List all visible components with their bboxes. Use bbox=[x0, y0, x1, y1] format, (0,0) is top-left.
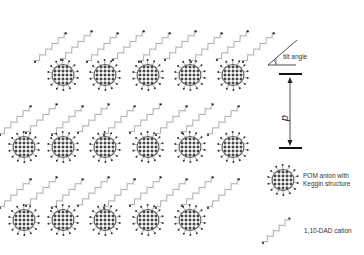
pom-cluster bbox=[132, 204, 163, 236]
pom-layer bbox=[8, 59, 248, 236]
cation-legend-label: 1,10-DAD cation bbox=[304, 227, 352, 235]
spacing-d-label: d bbox=[280, 115, 292, 121]
cation-layer bbox=[0, 30, 275, 209]
pom-cluster bbox=[174, 204, 205, 236]
tilt-angle-label: tilt angle bbox=[283, 53, 307, 61]
pom-cluster bbox=[47, 59, 78, 91]
pom-cluster bbox=[89, 59, 120, 91]
pom-cluster bbox=[89, 204, 120, 236]
pom-cluster bbox=[217, 131, 248, 163]
pom-legend-label: POM anion with Keggin structure bbox=[303, 172, 350, 188]
pom-cluster bbox=[132, 59, 163, 91]
pom-cluster bbox=[132, 131, 163, 163]
pom-cluster bbox=[174, 59, 205, 91]
legend bbox=[262, 40, 302, 244]
pom-cluster bbox=[8, 204, 39, 236]
pom-cluster bbox=[174, 131, 205, 163]
pom-cluster bbox=[8, 131, 39, 163]
pom-cluster bbox=[217, 59, 248, 91]
packing-diagram bbox=[0, 0, 364, 255]
pom-cluster bbox=[89, 131, 120, 163]
pom-cluster bbox=[267, 164, 298, 196]
